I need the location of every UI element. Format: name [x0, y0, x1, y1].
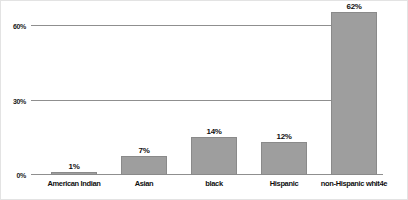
- bar-value-asian: 7%: [139, 146, 150, 155]
- category-label-asian: Asian: [135, 179, 154, 188]
- bar-group-american-indian[interactable]: 1% American Indian: [51, 12, 97, 175]
- bar-value-hispanic: 12%: [277, 132, 292, 141]
- ytick-label-0: 0%: [16, 172, 26, 179]
- bar-group-asian[interactable]: 7% Asian: [121, 12, 167, 175]
- bar-value-non-hispanic-white: 62%: [347, 2, 362, 11]
- bars-layer: 1% American Indian 7% Asian 14% black 12…: [31, 12, 403, 175]
- bar-group-non-hispanic-white[interactable]: 62% non-Hispanic whit4e: [331, 12, 377, 175]
- bar-non-hispanic-white[interactable]: 62%: [331, 12, 377, 175]
- bar-black[interactable]: 14%: [191, 137, 237, 175]
- bar-american-indian[interactable]: 1%: [51, 172, 97, 175]
- plot-area: 60% 30% 0% 1% American Indian 7% Asian: [31, 11, 403, 175]
- bar-value-american-indian: 1%: [69, 162, 80, 171]
- ytick-label-30: 30%: [13, 98, 26, 105]
- bar-chart-figure: 60% 30% 0% 1% American Indian 7% Asian: [0, 0, 408, 200]
- bar-hispanic[interactable]: 12%: [261, 142, 307, 175]
- category-label-hispanic: Hispanic: [270, 179, 298, 188]
- bar-asian[interactable]: 7%: [121, 156, 167, 175]
- category-label-non-hispanic-white: non-Hispanic whit4e: [321, 179, 387, 188]
- ytick-label-60: 60%: [13, 23, 26, 30]
- bar-value-black: 14%: [207, 127, 222, 136]
- category-label-black: black: [205, 179, 222, 188]
- category-label-american-indian: American Indian: [47, 179, 100, 188]
- bar-group-hispanic[interactable]: 12% Hispanic: [261, 12, 307, 175]
- bar-group-black[interactable]: 14% black: [191, 12, 237, 175]
